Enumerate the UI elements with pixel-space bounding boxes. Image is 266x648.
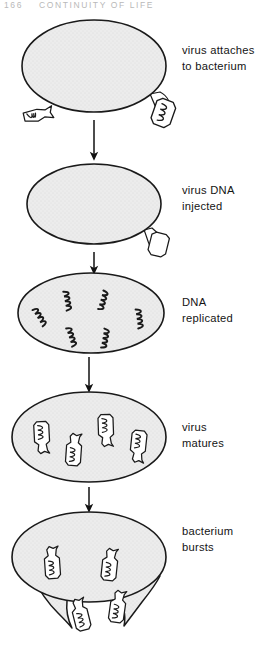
stage-1-bacterium bbox=[22, 20, 166, 112]
stage-5-bacterium bbox=[12, 512, 166, 602]
stage-label-virus-matures: virus matures bbox=[182, 420, 266, 451]
stage-label-virus-attaches: virus attaches to bacterium bbox=[182, 43, 266, 74]
stage-3-graphic bbox=[18, 273, 164, 353]
stage-5-graphic bbox=[12, 512, 166, 632]
stage-label-bacterium-bursts: bacterium bursts bbox=[182, 524, 266, 555]
stage-2-bacterium bbox=[27, 164, 161, 244]
stage-2-graphic bbox=[27, 164, 170, 258]
stage-1-graphic bbox=[22, 20, 177, 129]
stage-label-virus-dna-injected: virus DNA injected bbox=[182, 183, 266, 214]
stage-label-dna-replicated: DNA replicated bbox=[182, 295, 266, 326]
stage-1-free-virus bbox=[23, 106, 54, 123]
stage-4-graphic bbox=[12, 392, 166, 482]
figure-root: 166 CONTINUITY OF LIFE bbox=[0, 0, 266, 648]
